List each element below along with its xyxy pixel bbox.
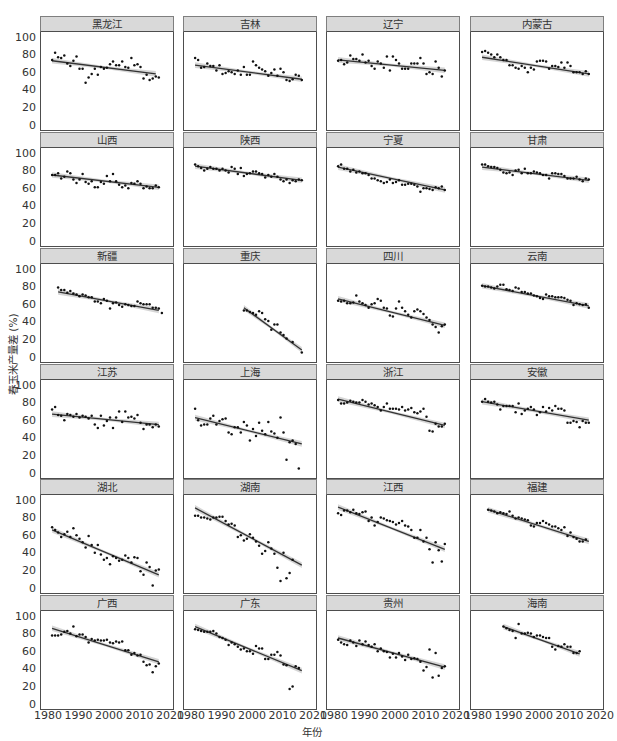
data-point <box>539 297 542 300</box>
data-point <box>520 291 523 294</box>
data-point <box>554 172 557 175</box>
data-point <box>145 561 148 564</box>
data-point <box>355 294 358 297</box>
data-point <box>517 516 520 519</box>
data-point <box>106 67 109 70</box>
data-point <box>588 73 591 76</box>
data-point <box>502 59 505 62</box>
data-point <box>209 166 212 169</box>
data-point <box>524 67 527 70</box>
y-tick-label: 20 <box>22 681 36 692</box>
data-point <box>233 426 236 429</box>
data-point <box>264 658 267 661</box>
data-point <box>206 168 209 171</box>
data-point <box>81 415 84 418</box>
data-point <box>212 168 215 171</box>
data-point <box>398 179 401 182</box>
data-point <box>545 410 548 413</box>
data-point <box>355 58 358 61</box>
data-point <box>373 302 376 305</box>
facet-strip-label: 四川 <box>326 248 460 264</box>
data-point <box>340 300 343 303</box>
data-point <box>57 172 60 175</box>
data-point <box>434 60 437 63</box>
data-point <box>410 316 413 319</box>
data-point <box>340 641 343 644</box>
data-point <box>502 284 505 287</box>
data-point <box>367 520 370 523</box>
data-point <box>376 179 379 182</box>
data-point <box>361 172 364 175</box>
data-point <box>72 415 75 418</box>
facet-plot-area <box>183 495 317 594</box>
data-point <box>121 306 124 309</box>
scatter-plot <box>327 148 459 246</box>
data-point <box>246 74 249 77</box>
data-point <box>517 287 520 290</box>
data-point <box>294 74 297 77</box>
data-point <box>355 171 358 174</box>
data-point <box>416 537 419 540</box>
data-point <box>551 646 554 649</box>
data-point <box>585 303 588 306</box>
data-point <box>261 647 264 650</box>
data-point <box>536 414 539 417</box>
scatter-plot <box>41 495 173 593</box>
data-point <box>115 180 118 183</box>
data-point <box>337 165 340 168</box>
data-point <box>566 422 569 425</box>
data-point <box>243 647 246 650</box>
data-point <box>267 421 270 424</box>
data-point <box>291 685 294 688</box>
data-point <box>373 67 376 70</box>
facet-panel: 福建 <box>470 479 604 594</box>
facet-plot-area <box>40 495 174 594</box>
data-point <box>209 65 212 68</box>
data-point <box>279 416 282 419</box>
data-point <box>267 174 270 177</box>
data-point <box>148 79 151 82</box>
data-point <box>499 284 502 287</box>
data-point <box>569 299 572 302</box>
data-point <box>72 60 75 63</box>
data-point <box>218 64 221 66</box>
data-point <box>434 422 437 425</box>
data-point <box>258 172 261 175</box>
data-point <box>57 286 60 289</box>
data-point <box>407 408 410 411</box>
data-point <box>380 180 383 183</box>
data-point <box>557 527 560 530</box>
data-point <box>258 545 261 548</box>
data-point <box>548 637 551 640</box>
data-point <box>490 53 493 56</box>
data-point <box>502 171 505 174</box>
facet-panel: 浙江 <box>326 364 460 479</box>
data-point <box>130 415 133 418</box>
data-point <box>431 323 434 326</box>
data-point <box>545 60 548 63</box>
data-point <box>337 60 340 63</box>
data-point <box>197 419 200 422</box>
scatter-plot <box>184 380 316 478</box>
data-point <box>106 639 109 642</box>
data-point <box>115 640 118 643</box>
data-point <box>346 401 349 404</box>
data-point <box>142 77 145 80</box>
data-point <box>505 405 508 408</box>
data-point <box>51 59 54 62</box>
data-point <box>294 443 297 446</box>
data-point <box>392 55 395 58</box>
data-point <box>514 637 517 640</box>
data-point <box>410 62 413 65</box>
data-point <box>227 431 230 434</box>
data-point <box>517 402 520 405</box>
data-point <box>240 74 243 77</box>
data-point <box>63 419 66 422</box>
scatter-plot <box>184 495 316 593</box>
data-point <box>511 174 513 177</box>
data-point <box>261 173 264 176</box>
data-point <box>66 630 69 633</box>
data-point <box>514 411 517 414</box>
data-point <box>69 65 72 68</box>
facet-panel: 宁夏 <box>326 132 460 247</box>
